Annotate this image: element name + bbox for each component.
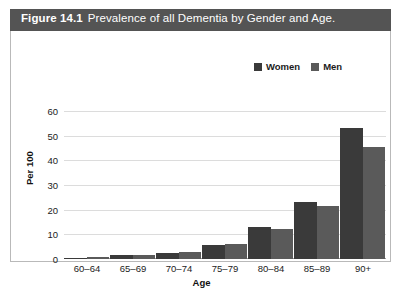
bar-group: 90+ [340,111,386,259]
bar-men[interactable] [87,257,109,259]
legend-swatch-icon [311,63,319,71]
bar-group: 65–69 [110,111,156,259]
figure-caption: Prevalence of all Dementia by Gender and… [88,12,335,24]
x-axis-tick-label: 90+ [340,263,386,274]
x-axis-tick-label: 65–69 [110,263,156,274]
legend-label: Women [266,61,300,72]
bar-group: 75–79 [202,111,248,259]
bar-men[interactable] [363,147,385,259]
x-axis-tick-label: 80–84 [248,263,294,274]
bar-men[interactable] [133,255,155,259]
legend-swatch-icon [254,63,262,71]
bar-men[interactable] [271,229,293,259]
bar-men[interactable] [179,252,201,259]
x-axis-tick-label: 75–79 [202,263,248,274]
bar-men[interactable] [225,244,247,259]
bar-women[interactable] [64,258,86,259]
bar-women[interactable] [294,202,316,259]
bar-group: 60–64 [64,111,110,259]
chart-legend: WomenMen [254,61,342,72]
x-axis-tick-label: 70–74 [156,263,202,274]
bar-women[interactable] [156,253,178,259]
bar-women[interactable] [110,255,132,259]
figure-title: Figure 14.1Prevalence of all Dementia by… [21,12,335,24]
x-axis-tick-label: 85–89 [294,263,340,274]
legend-item-women[interactable]: Women [254,61,300,72]
figure-number: Figure 14.1 [21,12,83,24]
chart-body: WomenMen Per 100 Age 010203040506060–646… [10,31,391,262]
y-axis-tick-label: 10 [47,229,58,240]
bar-group: 70–74 [156,111,202,259]
figure-title-bar: Figure 14.1Prevalence of all Dementia by… [10,9,391,31]
y-axis-tick-label: 40 [47,155,58,166]
bar-group: 85–89 [294,111,340,259]
bar-group: 80–84 [248,111,294,259]
y-axis-tick-label: 50 [47,130,58,141]
bar-women[interactable] [340,128,362,259]
bar-men[interactable] [317,206,339,259]
legend-item-men[interactable]: Men [311,61,342,72]
y-axis-tick-label: 60 [47,106,58,117]
y-axis-tick-label: 30 [47,180,58,191]
y-axis-label: Per 100 [24,151,35,185]
figure-container: Figure 14.1Prevalence of all Dementia by… [10,9,391,262]
bar-women[interactable] [202,245,224,259]
x-axis-tick-label: 60–64 [64,263,110,274]
legend-label: Men [323,61,342,72]
y-axis-tick-label: 0 [53,254,58,265]
y-axis-tick-label: 20 [47,204,58,215]
bar-women[interactable] [248,227,270,259]
plot-area: 010203040506060–6465–6970–7475–7980–8485… [64,111,386,259]
x-axis-label: Age [11,277,392,288]
